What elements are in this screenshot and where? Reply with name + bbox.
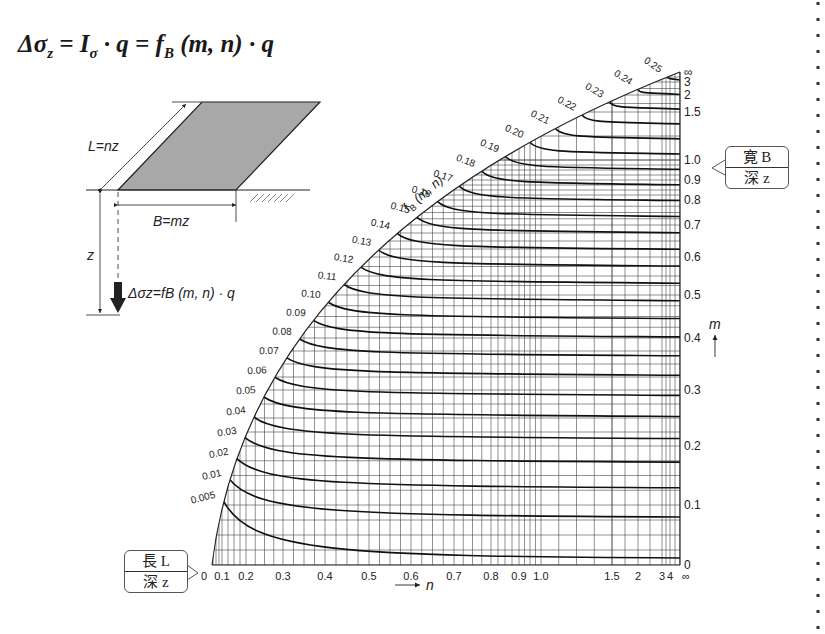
x-tick-label: 0.1 <box>214 570 229 582</box>
y-tick-label: 0.4 <box>684 331 701 345</box>
curve-label: 0.07 <box>259 345 279 356</box>
x-tick-label: 0.2 <box>238 570 253 582</box>
curve-label: 0.09 <box>286 306 306 318</box>
curve-label: 0.10 <box>301 288 322 301</box>
depth-label: z <box>86 247 94 263</box>
y-tick-label: 0.3 <box>684 383 701 397</box>
stress-arrow-icon <box>110 282 126 313</box>
x-tick-label: 1.5 <box>604 570 619 582</box>
y-tick-label: 0.1 <box>684 498 701 512</box>
curve-label: 0.005 <box>189 489 216 506</box>
fb-curve <box>459 186 680 200</box>
footing-diagram <box>86 102 320 315</box>
width-label: B=mz <box>153 213 189 229</box>
fb-curve <box>264 397 680 416</box>
stress-label: Δσz=fB (m, n) · q <box>127 285 235 301</box>
chart-title: fB (m, n) <box>400 172 447 215</box>
curve-label: 0.12 <box>333 251 354 265</box>
curve-label: 0.03 <box>216 425 237 439</box>
fb-curve <box>482 171 680 185</box>
y-tick-label: 0 <box>684 558 691 572</box>
curve-label: 0.24 <box>612 67 635 87</box>
curve-label: 0.23 <box>584 80 607 100</box>
fb-curve <box>555 128 680 138</box>
y-tick-label: 0.5 <box>684 288 701 302</box>
m-axis-label: m <box>709 316 721 332</box>
y-tick-label: 1.5 <box>684 105 701 119</box>
fb-curve <box>254 417 680 438</box>
curve-label: 0.20 <box>503 122 526 140</box>
y-tick-label: 0.2 <box>684 439 701 453</box>
fb-curve <box>379 250 680 266</box>
fb-curve <box>638 89 680 94</box>
fb-curve <box>397 234 680 250</box>
x-tick-label: 2 <box>635 570 641 582</box>
curve-label: 0.25 <box>642 55 665 75</box>
y-tick-label: 0.7 <box>684 218 701 232</box>
y-axis-ticks: 00.10.20.30.40.50.60.70.80.91.01.523∞ <box>684 65 701 572</box>
x-tick-label: 0.6 <box>403 570 418 582</box>
width-ratio-numerator: 寛 B <box>726 147 788 168</box>
fb-curve <box>582 115 680 124</box>
curve-label: 0.13 <box>351 234 373 249</box>
fb-curve <box>245 438 680 462</box>
n-axis-label: n <box>426 577 434 593</box>
y-tick-label: ∞ <box>684 65 693 79</box>
y-tick-label: 1.0 <box>684 153 701 167</box>
y-tick-label: 0.9 <box>684 173 701 187</box>
x-tick-label: 0.4 <box>317 570 332 582</box>
x-tick-label: 0.5 <box>361 570 376 582</box>
x-tick-label: 0 <box>201 570 207 582</box>
curve-label: 0.14 <box>370 216 392 231</box>
curve-label: 0.02 <box>208 446 230 460</box>
fb-curve <box>224 502 680 558</box>
x-tick-label: 0.9 <box>511 570 526 582</box>
curve-label: 0.05 <box>236 384 257 397</box>
length-ratio-numerator: 長 L <box>125 551 187 572</box>
x-axis-ticks: 00.10.20.30.40.50.60.70.80.91.01.5234∞ <box>201 570 690 582</box>
x-tick-label: 0.3 <box>275 570 290 582</box>
width-ratio-callout: 寛 B 深 z <box>725 146 789 189</box>
x-tick-label: 0.7 <box>446 570 461 582</box>
curve-label: 0.04 <box>226 404 247 417</box>
x-tick-label: 3 <box>659 570 665 582</box>
fb-curve <box>530 142 680 154</box>
x-tick-label: 4 <box>667 570 673 582</box>
fb-curve <box>287 358 680 375</box>
curve-label: 0.19 <box>479 137 502 155</box>
dotted-margin-line <box>816 0 820 634</box>
fb-curve <box>237 459 680 488</box>
fb-curve <box>361 267 680 283</box>
curve-label: 0.18 <box>455 152 477 169</box>
fb-curve <box>667 77 680 80</box>
length-ratio-denominator: 深 z <box>125 572 187 592</box>
y-tick-label: 0.8 <box>684 193 701 207</box>
length-label: L=nz <box>88 138 119 154</box>
fb-curve <box>328 302 680 318</box>
fb-curve <box>300 339 680 356</box>
loaded-area <box>118 102 320 190</box>
fb-curve <box>609 102 680 109</box>
length-ratio-callout: 長 L 深 z <box>124 550 188 593</box>
curve-label: 0.22 <box>556 94 579 113</box>
fb-curve <box>275 377 680 395</box>
curve-label: 0.01 <box>201 467 223 482</box>
curve-label: 0.08 <box>272 326 292 337</box>
curve-label: 0.11 <box>317 269 337 282</box>
ground-hatch-icon <box>250 194 294 202</box>
curve-label: 0.06 <box>247 364 267 376</box>
y-tick-label: 0.6 <box>684 250 701 264</box>
width-ratio-denominator: 深 z <box>726 168 788 188</box>
x-tick-label: 0.8 <box>483 570 498 582</box>
x-tick-label: 1.0 <box>533 570 548 582</box>
curve-label: 0.21 <box>529 108 552 127</box>
fb-curve <box>505 157 680 170</box>
y-tick-label: 2 <box>684 88 691 102</box>
influence-chart: 00.10.20.30.40.50.60.70.80.91.01.5234∞ 0… <box>0 0 825 634</box>
